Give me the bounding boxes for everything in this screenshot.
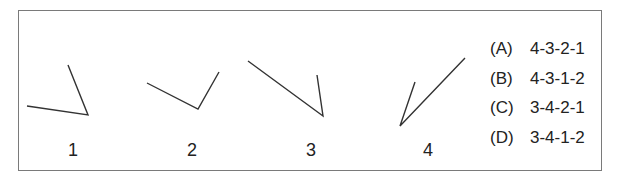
angle-3-shape [248,61,323,116]
option-c[interactable]: (C) 3-4-2-1 [490,96,585,126]
angle-4-label: 4 [413,140,443,161]
angle-4-shape [400,58,465,126]
option-d[interactable]: (D) 3-4-1-2 [490,126,585,156]
angle-3-label: 3 [296,140,326,161]
angle-1-shape [27,65,88,115]
option-key: (B) [490,67,530,97]
option-a[interactable]: (A) 4-3-2-1 [490,37,585,67]
option-key: (D) [490,126,530,156]
angle-1-label: 1 [58,140,88,161]
option-value: 4-3-1-2 [530,67,585,97]
angle-2-shape [147,72,219,109]
angle-2-label: 2 [177,140,207,161]
option-key: (A) [490,37,530,67]
option-b[interactable]: (B) 4-3-1-2 [490,67,585,97]
option-key: (C) [490,96,530,126]
option-value: 3-4-2-1 [530,96,585,126]
answer-options: (A) 4-3-2-1 (B) 4-3-1-2 (C) 3-4-2-1 (D) … [490,37,585,155]
option-value: 4-3-2-1 [530,37,585,67]
option-value: 3-4-1-2 [530,126,585,156]
